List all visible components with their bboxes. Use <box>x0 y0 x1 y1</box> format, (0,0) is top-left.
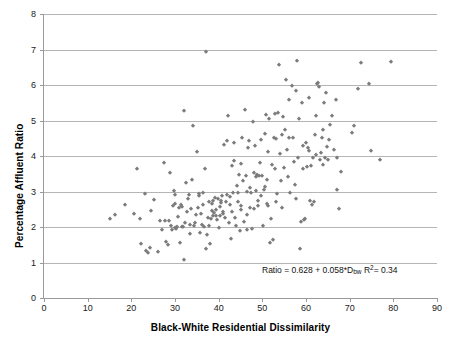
data-point <box>155 249 160 254</box>
data-point <box>368 149 373 154</box>
data-point <box>248 185 253 190</box>
data-point <box>314 114 319 119</box>
data-point <box>238 162 243 167</box>
data-point <box>199 212 204 217</box>
y-tick-label-6: 6 <box>14 80 36 90</box>
data-point <box>230 210 235 215</box>
gridline-y-8 <box>44 14 437 15</box>
data-point <box>319 135 324 140</box>
data-point <box>307 96 312 101</box>
data-point <box>266 150 271 155</box>
data-point <box>228 203 233 208</box>
data-point <box>247 138 252 143</box>
x-tick-label-50: 50 <box>250 303 274 313</box>
data-point <box>201 191 206 196</box>
x-tick-mark-20 <box>131 298 132 302</box>
data-point <box>332 147 337 152</box>
data-point <box>318 158 323 163</box>
plot-area <box>44 14 437 298</box>
x-tick-mark-90 <box>437 298 438 302</box>
data-point <box>235 183 240 188</box>
data-point <box>283 128 288 133</box>
x-tick-mark-40 <box>219 298 220 302</box>
data-point <box>132 211 137 216</box>
data-point <box>352 123 357 128</box>
gridline-y-5 <box>44 121 437 122</box>
data-point <box>277 63 282 68</box>
data-point <box>275 192 280 197</box>
data-point <box>218 200 223 205</box>
data-point <box>237 229 242 234</box>
data-point <box>249 227 254 232</box>
scatter-chart-figure: 012345678 0102030405060708090 Percentage… <box>0 0 455 345</box>
data-point <box>194 150 199 155</box>
y-tick-mark-6 <box>40 85 44 86</box>
data-point <box>330 114 335 119</box>
data-point <box>260 173 265 178</box>
equation-rhs: = 0.34 <box>374 265 398 275</box>
data-point <box>232 141 237 146</box>
y-tick-label-0: 0 <box>14 293 36 303</box>
x-tick-mark-80 <box>393 298 394 302</box>
data-point <box>173 193 178 198</box>
data-point <box>389 60 394 65</box>
data-point <box>320 162 325 167</box>
data-point <box>284 78 289 83</box>
data-point <box>337 207 342 212</box>
data-point <box>309 163 314 168</box>
data-point <box>292 183 297 188</box>
data-point <box>322 100 327 105</box>
y-tick-mark-2 <box>40 227 44 228</box>
data-point <box>228 237 233 242</box>
x-tick-label-90: 90 <box>425 303 449 313</box>
data-point <box>233 216 238 221</box>
x-tick-label-40: 40 <box>207 303 231 313</box>
gridline-y-4 <box>44 156 437 157</box>
y-tick-mark-1 <box>40 263 44 264</box>
data-point <box>240 135 245 140</box>
x-tick-mark-70 <box>350 298 351 302</box>
data-point <box>195 206 200 211</box>
data-point <box>291 160 296 165</box>
data-point <box>138 242 143 247</box>
data-point <box>122 203 127 208</box>
equation-lhs: Ratio = 0.628 + 0.058*D <box>262 265 353 275</box>
data-point <box>198 231 203 236</box>
x-tick-mark-50 <box>262 298 263 302</box>
data-point <box>306 148 311 153</box>
y-tick-label-8: 8 <box>14 9 36 19</box>
data-point <box>107 217 112 222</box>
x-axis-line <box>43 298 437 299</box>
data-point <box>256 204 261 209</box>
x-tick-label-10: 10 <box>76 303 100 313</box>
data-point <box>326 138 331 143</box>
data-point <box>176 214 181 219</box>
data-point <box>246 145 251 150</box>
data-point <box>279 132 284 137</box>
data-point <box>165 242 170 247</box>
data-point <box>243 173 248 178</box>
data-point <box>285 174 290 179</box>
equation-subscript: bw <box>353 268 361 275</box>
data-point <box>229 164 234 169</box>
data-point <box>263 132 268 137</box>
data-point <box>188 232 193 237</box>
data-point <box>274 137 279 142</box>
data-point <box>135 167 140 172</box>
x-tick-mark-60 <box>306 298 307 302</box>
data-point <box>152 197 157 202</box>
data-point <box>168 171 173 176</box>
data-point <box>113 213 118 218</box>
data-point <box>318 151 323 156</box>
data-point <box>190 177 195 182</box>
data-point <box>325 158 330 163</box>
y-tick-label-1: 1 <box>14 258 36 268</box>
data-point <box>227 194 232 199</box>
data-point <box>227 221 232 226</box>
data-point <box>339 170 344 175</box>
data-point <box>242 107 247 112</box>
data-point <box>264 177 269 182</box>
data-point <box>222 143 227 148</box>
x-tick-label-80: 80 <box>381 303 405 313</box>
data-point <box>149 209 154 214</box>
